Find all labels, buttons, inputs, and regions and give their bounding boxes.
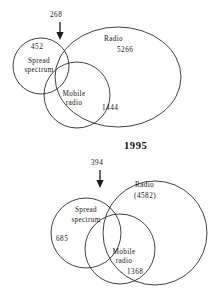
top-callout-value: 268: [50, 11, 62, 20]
bottom-callout-value: 394: [91, 159, 103, 168]
bottom-radio-count: (4582): [134, 192, 156, 201]
bottom-mobile-radio-label-line1: Mobile: [104, 248, 144, 257]
top-radio-label: Radio: [104, 35, 123, 44]
top-mobile-radio-count: 1444: [102, 104, 118, 113]
bottom-callout-arrow-head: [96, 180, 103, 188]
top-mobile-radio-label-line1: Mobile: [54, 90, 94, 99]
venn-figure: 268 452 Spread spectrum Radio 5266 Mobil…: [0, 0, 213, 296]
bottom-spread-spectrum-label-line1: Spread: [60, 206, 112, 215]
bottom-radio-label: Radio: [135, 181, 154, 190]
bottom-spread-spectrum-label-line2: spectrum: [60, 216, 112, 225]
year-label: 1995: [124, 140, 147, 151]
top-spread-spectrum-label-line2: spectrum: [13, 66, 65, 75]
top-mobile-radio-label-line2: radio: [54, 99, 94, 108]
top-spread-spectrum-count: 452: [31, 43, 43, 52]
top-radio-count: 5266: [117, 46, 133, 55]
bottom-spread-spectrum-count: 685: [56, 235, 68, 244]
top-spread-spectrum-label-line1: Spread: [13, 57, 65, 66]
bottom-mobile-radio-count: 1368: [127, 268, 143, 277]
top-callout-arrow-head: [56, 32, 63, 40]
bottom-mobile-radio-label-line2: radio: [104, 257, 144, 266]
